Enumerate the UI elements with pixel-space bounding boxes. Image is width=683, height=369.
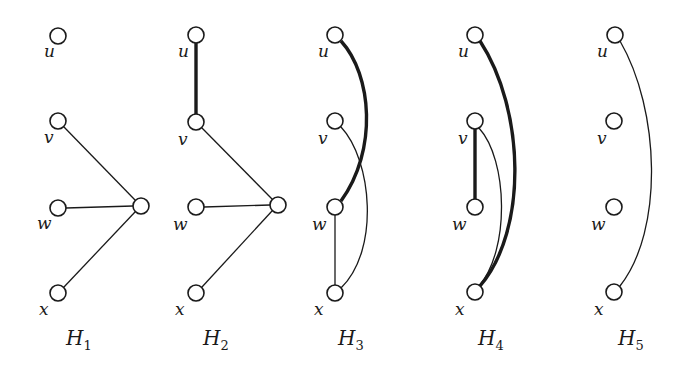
vertex-w bbox=[188, 199, 204, 215]
edge-u-x bbox=[620, 41, 652, 286]
edge-u-w bbox=[341, 41, 367, 201]
vertex-label-w: w bbox=[173, 214, 188, 234]
vertex-x bbox=[188, 285, 204, 301]
vertex-w bbox=[606, 199, 622, 215]
graph-h5: uvwxH5 bbox=[591, 27, 652, 353]
vertex-v bbox=[327, 113, 343, 129]
vertex-label-u: u bbox=[318, 41, 329, 61]
vertex-label-v: v bbox=[318, 128, 328, 148]
edge-v-hub bbox=[64, 127, 135, 200]
vertex-u bbox=[188, 27, 204, 43]
graph-h4: uvwxH4 bbox=[452, 27, 515, 353]
vertex-label-w: w bbox=[591, 214, 606, 234]
vertex-x bbox=[50, 285, 66, 301]
graph-label: H2 bbox=[202, 326, 229, 353]
vertex-label-u: u bbox=[44, 41, 55, 61]
graph-figure: uvwxH1uvwxH2uvwxH3uvwxH4uvwxH5 bbox=[0, 0, 683, 369]
vertex-label-u: u bbox=[178, 41, 189, 61]
vertex-x bbox=[327, 285, 343, 301]
edge-x-hub bbox=[64, 212, 135, 287]
vertex-w bbox=[467, 199, 483, 215]
graph-label: H1 bbox=[65, 326, 92, 353]
edge-v-hub bbox=[202, 128, 272, 199]
graph-h3: uvwxH3 bbox=[312, 27, 367, 353]
vertex-label-u: u bbox=[458, 41, 469, 61]
vertex-label-u: u bbox=[597, 41, 608, 61]
vertex-v bbox=[188, 114, 204, 130]
vertex-label-x: x bbox=[39, 299, 49, 319]
vertex-w bbox=[327, 199, 343, 215]
vertex-label-v: v bbox=[44, 127, 54, 147]
vertex-x bbox=[467, 284, 483, 300]
vertex-label-x: x bbox=[455, 299, 465, 319]
vertex-label-w: w bbox=[37, 213, 52, 233]
edge-u-x bbox=[480, 41, 515, 286]
vertex-v bbox=[606, 113, 622, 129]
vertex-label-x: x bbox=[314, 299, 324, 319]
vertex-v bbox=[467, 113, 483, 129]
vertex-u bbox=[467, 27, 483, 43]
vertex-label-x: x bbox=[175, 299, 185, 319]
vertex-label-w: w bbox=[312, 214, 327, 234]
graph-label: H5 bbox=[617, 326, 644, 353]
vertex-label-x: x bbox=[594, 299, 604, 319]
vertex-hub bbox=[133, 198, 149, 214]
vertex-w bbox=[50, 200, 66, 216]
vertex-label-v: v bbox=[178, 129, 188, 149]
edge-w-hub bbox=[204, 205, 270, 207]
vertex-label-w: w bbox=[452, 214, 467, 234]
vertex-hub bbox=[270, 197, 286, 213]
graph-h2: uvwxH2 bbox=[173, 27, 286, 353]
vertex-x bbox=[606, 284, 622, 300]
vertex-label-v: v bbox=[597, 128, 607, 148]
vertex-label-v: v bbox=[458, 128, 468, 148]
graph-label: H3 bbox=[337, 326, 364, 353]
graph-h1: uvwxH1 bbox=[37, 28, 149, 353]
edge-w-hub bbox=[66, 206, 133, 208]
graph-label: H4 bbox=[477, 326, 504, 353]
edge-x-hub bbox=[202, 211, 272, 287]
vertex-u bbox=[607, 27, 623, 43]
vertex-u bbox=[327, 27, 343, 43]
